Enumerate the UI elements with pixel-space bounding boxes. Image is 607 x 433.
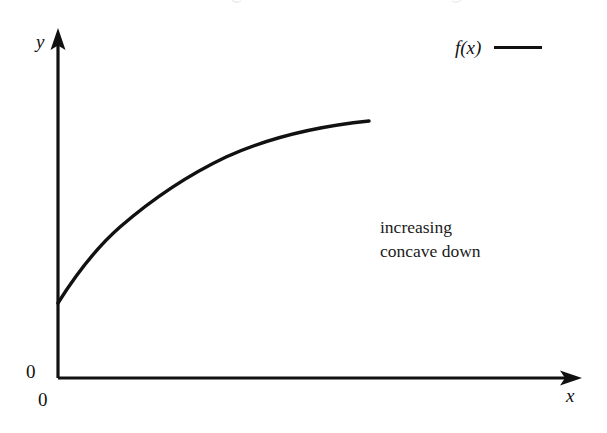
curve-annotation: increasing concave down bbox=[380, 216, 481, 263]
function-curve bbox=[58, 121, 369, 303]
legend-line-swatch bbox=[494, 46, 542, 49]
figure-container: y x 0 0 f(x) increasing concave down bbox=[0, 0, 607, 433]
plot-svg bbox=[0, 0, 607, 433]
caption-descender-artifacts bbox=[232, 0, 461, 2]
y-axis-label: y bbox=[36, 32, 44, 51]
annotation-line-2: concave down bbox=[380, 240, 481, 264]
x-axis-origin-label: 0 bbox=[38, 390, 48, 409]
legend-label-fx: f(x) bbox=[455, 38, 481, 57]
annotation-line-1: increasing bbox=[380, 216, 481, 240]
legend: f(x) bbox=[455, 38, 542, 57]
y-axis-origin-label: 0 bbox=[26, 362, 36, 381]
x-axis-label: x bbox=[566, 386, 574, 405]
